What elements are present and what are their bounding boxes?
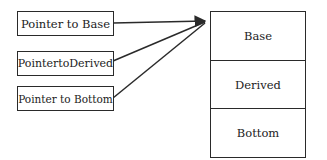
arrow-base <box>113 21 205 23</box>
cell-label: Bottom <box>237 126 279 140</box>
cell-label: Base <box>244 29 272 43</box>
cell-bottom: Bottom <box>211 108 305 157</box>
pointer-to-base-box: Pointer to Base <box>17 11 114 36</box>
object-layout-stack: Base Derived Bottom <box>210 11 306 158</box>
cell-derived: Derived <box>211 60 305 109</box>
pointer-label: Pointer to Base <box>21 17 110 31</box>
cell-label: Derived <box>235 78 281 92</box>
pointer-label: Pointer to Bottom <box>18 93 113 105</box>
pointer-label: PointertoDerived <box>18 57 113 70</box>
arrow-bottom <box>113 23 205 98</box>
cell-base: Base <box>211 12 305 60</box>
pointer-to-derived-box: PointertoDerived <box>17 51 114 76</box>
arrow-derived <box>113 22 205 61</box>
pointer-to-bottom-box: Pointer to Bottom <box>17 86 114 111</box>
